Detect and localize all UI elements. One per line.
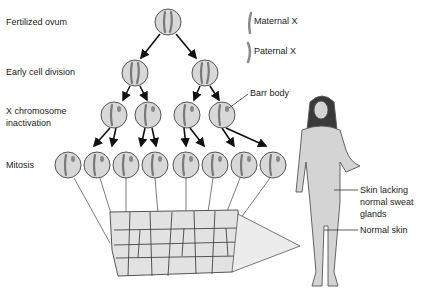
label-skin-lacking-3: glands [360, 209, 387, 220]
body [296, 126, 360, 286]
magnification-wedge [232, 214, 300, 272]
legend-icons [248, 13, 251, 62]
label-fertilized-ovum: Fertilized ovum [6, 17, 67, 28]
paternal-x-icon [248, 43, 250, 62]
inactivation-cell-2 [135, 102, 161, 128]
woman-figure [296, 96, 360, 286]
label-barr-body: Barr body [250, 88, 289, 99]
label-early-cell-division: Early cell division [6, 67, 75, 78]
early-division-cell-1 [122, 60, 148, 86]
inactivation-cell-1 [101, 102, 127, 128]
early-division-cell-2 [192, 60, 218, 86]
inactivation-cell-3 [174, 102, 200, 128]
legend-paternal-x: Paternal X [254, 46, 296, 57]
label-skin-lacking-1: Skin lacking [360, 185, 408, 196]
inactivation-cell-4 [209, 102, 235, 128]
fertilized-ovum-cell [155, 9, 181, 35]
chromosomes [65, 12, 271, 175]
label-x-inactivation-1: X chromosome [6, 106, 67, 117]
label-mitosis: Mitosis [6, 160, 34, 171]
legend-maternal-x: Maternal X [254, 16, 298, 27]
skin-tissue-block [110, 210, 240, 276]
label-x-inactivation-2: inactivation [6, 118, 51, 129]
label-normal-skin: Normal skin [360, 225, 408, 236]
maternal-x-icon [249, 13, 251, 33]
lineage-arrows [94, 34, 266, 146]
label-skin-lacking-2: normal sweat [360, 197, 414, 208]
x-inactivation-diagram [0, 0, 446, 292]
